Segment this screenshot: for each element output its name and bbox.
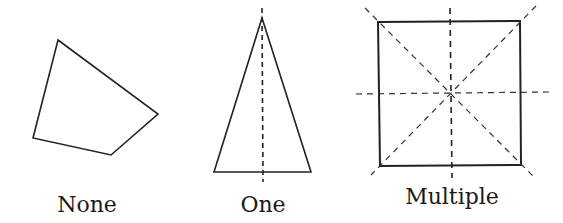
label-multiple: Multiple bbox=[405, 184, 499, 209]
shape-multiple bbox=[356, 6, 549, 178]
square-diagonal-axis-2 bbox=[371, 6, 536, 175]
label-one: One bbox=[240, 192, 285, 217]
shape-one bbox=[214, 8, 311, 182]
quadrilateral-shape bbox=[33, 40, 158, 155]
label-none: None bbox=[57, 192, 117, 217]
shape-none bbox=[33, 40, 158, 155]
triangle-shape bbox=[214, 18, 311, 172]
symmetry-diagram: None One Multiple bbox=[0, 0, 563, 223]
triangle-symmetry-axis bbox=[262, 8, 263, 182]
